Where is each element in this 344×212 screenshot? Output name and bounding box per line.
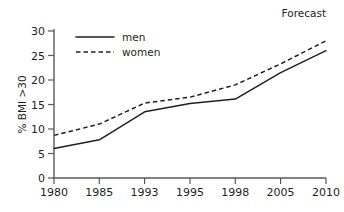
y-tick-label: 25 <box>31 50 45 63</box>
y-tick-label: 10 <box>31 123 45 136</box>
y-tick-label: 15 <box>31 99 45 112</box>
x-tick-label: 1998 <box>221 186 249 199</box>
y-tick-label: 30 <box>31 25 45 38</box>
chart-background <box>0 0 344 212</box>
y-axis-title: % BMI >30 <box>16 75 28 133</box>
x-tick-label: 1995 <box>176 186 204 199</box>
bmi-trend-line-chart: 0 5 10 15 20 25 30 % BMI >30 1980 1985 1… <box>0 0 344 212</box>
x-tick-label: 1993 <box>131 186 159 199</box>
x-tick-label: 2010 <box>312 186 340 199</box>
x-tick-label: 1980 <box>40 186 68 199</box>
forecast-annotation-label: Forecast <box>282 7 326 19</box>
y-tick-label: 0 <box>38 172 45 185</box>
y-tick-label: 5 <box>38 148 45 161</box>
x-tick-label: 2005 <box>267 186 295 199</box>
chart-canvas: 0 5 10 15 20 25 30 % BMI >30 1980 1985 1… <box>0 0 344 212</box>
legend-label-men: men <box>122 31 145 43</box>
y-tick-label: 20 <box>31 74 45 87</box>
x-tick-label: 1985 <box>85 186 113 199</box>
legend-label-women: women <box>122 46 160 58</box>
